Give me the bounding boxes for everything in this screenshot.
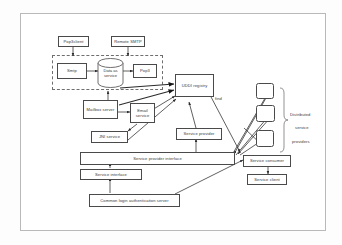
label-distributed: Distributed [290, 112, 310, 117]
node-service-client[interactable]: Service client [247, 174, 287, 185]
node-service-consumer[interactable]: Service consumer [243, 155, 291, 167]
node-uddi-registry[interactable]: UDDI registry [175, 74, 214, 97]
node-mailbox-server[interactable]: Mailbox server [83, 100, 118, 119]
node-service-interface[interactable]: Service interface [80, 169, 142, 180]
node-data-as-service-label: Data as service [97, 68, 124, 78]
node-pop3client[interactable]: Pop3client [58, 36, 89, 47]
diagram-canvas: Pop3client Remote SMTP Smtp Data as serv… [0, 0, 342, 245]
edge-label-find: find [215, 96, 222, 101]
node-distributed-provider-2[interactable] [256, 105, 275, 122]
node-email-service[interactable]: Email service [130, 103, 155, 123]
node-common-login-authentication-server[interactable]: Common login authentication server [89, 194, 180, 207]
node-service-provider[interactable]: Service provider [176, 128, 222, 140]
node-service-provider-interface[interactable]: Service provider interface [80, 152, 235, 165]
node-distributed-provider-1[interactable] [256, 83, 274, 99]
node-pop3[interactable]: Pop3 [133, 64, 157, 78]
label-service: service [295, 125, 309, 130]
node-smtp[interactable]: Smtp [57, 63, 87, 79]
label-providers: providers [292, 139, 310, 144]
node-remote-smtp[interactable]: Remote SMTP [111, 36, 145, 47]
node-jni-service[interactable]: JNI service [91, 131, 128, 143]
node-distributed-provider-3[interactable] [256, 130, 274, 147]
node-data-as-service[interactable]: Data as service [97, 58, 124, 88]
edge-layer [0, 0, 342, 245]
